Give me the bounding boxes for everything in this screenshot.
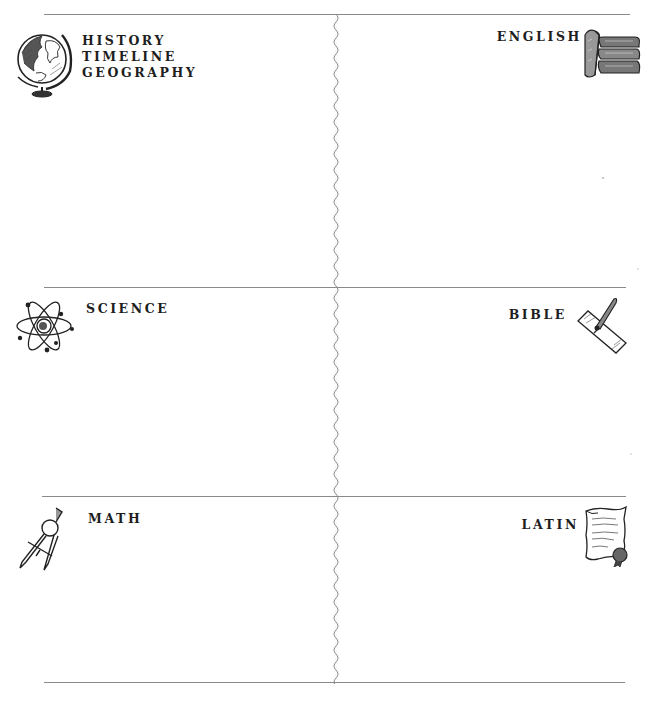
scan-artifact xyxy=(630,453,632,455)
globe-icon xyxy=(12,27,78,99)
section-english-label: ENGLISH xyxy=(497,29,582,45)
label-line-geography: GEOGRAPHY xyxy=(82,65,197,81)
label-line-timeline: TIMELINE xyxy=(82,49,197,65)
section-math-label: MATH xyxy=(88,511,142,527)
scan-artifact xyxy=(637,268,639,270)
label-line-bible: BIBLE xyxy=(509,307,567,323)
atom-icon xyxy=(14,297,74,355)
section-history-label: HISTORY TIMELINE GEOGRAPHY xyxy=(82,33,197,81)
label-line-history: HISTORY xyxy=(82,33,197,49)
scroll-seal-icon xyxy=(582,505,632,567)
wavy-column-divider xyxy=(330,14,342,684)
compass-icon xyxy=(16,506,72,572)
section-bible-label: BIBLE xyxy=(509,307,567,323)
label-line-science: SCIENCE xyxy=(86,301,169,317)
section-science-label: SCIENCE xyxy=(86,301,169,317)
quill-paper-icon xyxy=(574,297,632,355)
scan-artifact xyxy=(602,177,604,179)
section-latin-label: LATIN xyxy=(522,517,579,533)
label-line-math: MATH xyxy=(88,511,142,527)
label-line-english: ENGLISH xyxy=(497,29,582,45)
label-line-latin: LATIN xyxy=(522,517,579,533)
books-stack-icon xyxy=(577,27,643,79)
